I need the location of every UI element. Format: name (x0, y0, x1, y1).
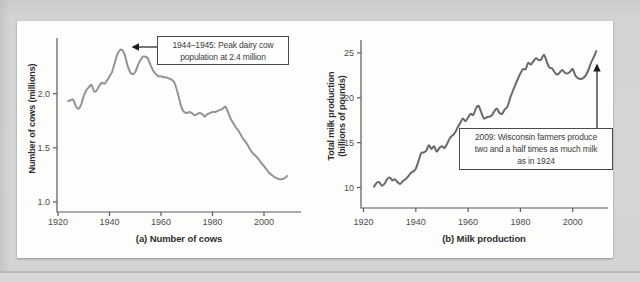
page-edge-strip (0, 273, 640, 282)
page-background: Number of cows (millions) (a) Number of … (0, 0, 640, 282)
chart-b-caption: (b) Milk production (404, 233, 564, 244)
annotation-text: as in 1924 (460, 155, 612, 167)
chart-a-y-tick-label: 1.5 (20, 143, 50, 153)
chart-a-annotation-box: 1944–1945: Peak dairy cow population at … (157, 36, 289, 65)
chart-a-y-tick-label: 1.0 (20, 197, 50, 207)
chart-a-x-tick-label: 1960 (144, 217, 178, 227)
chart-a-x-tick-label: 2000 (247, 217, 281, 227)
chart-b-x-tick-label: 1920 (347, 217, 381, 227)
chart-a-x-tick-label: 1980 (196, 217, 230, 227)
chart-b-x-tick-label: 1940 (399, 217, 433, 227)
annotation-text: population at 2.4 million (158, 51, 288, 63)
chart-b-x-tick-label: 2000 (556, 217, 590, 227)
annotation-text: two and a half times as much milk (460, 143, 612, 155)
chart-b-x-tick-label: 1980 (503, 217, 537, 227)
chart-b-y-tick-label: 20 (324, 93, 354, 103)
chart-b-y-tick-label: 25 (324, 48, 354, 58)
chart-a-x-tick-label: 1940 (93, 217, 127, 227)
chart-a-y-axis-label-line: Number of cows (millions) (27, 39, 38, 199)
chart-b-y-axis-label: Total milk production (billions of pound… (326, 36, 348, 196)
annotation-text: 1944–1945: Peak dairy cow (158, 39, 288, 51)
chart-a-x-tick-label: 1920 (41, 217, 75, 227)
chart-b-y-tick-label: 10 (324, 183, 354, 193)
chart-b-y-axis-label-line: (billions of pounds) (337, 36, 348, 196)
chart-a-y-axis-label: Number of cows (millions) (27, 39, 38, 199)
chart-a-caption: (a) Number of cows (99, 233, 259, 244)
chart-a-y-tick-label: 2.0 (20, 89, 50, 99)
chart-b-annotation-box: 2009: Wisconsin farmers produce two and … (459, 128, 613, 170)
chart-b-y-axis-label-line: Total milk production (326, 36, 337, 196)
annotation-text: 2009: Wisconsin farmers produce (460, 131, 612, 143)
chart-b-x-tick-label: 1960 (451, 217, 485, 227)
chart-b-y-tick-label: 15 (324, 138, 354, 148)
